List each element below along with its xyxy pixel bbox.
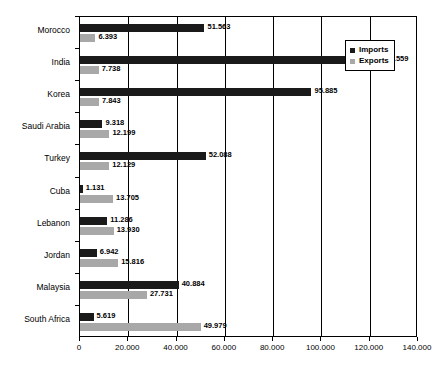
bar-value-label-imports: 9.318 (105, 119, 124, 127)
bar-imports (80, 281, 179, 289)
category-label: Malaysia (36, 282, 70, 292)
category-label: Korea (47, 89, 70, 99)
x-axis-tick (127, 337, 128, 341)
bar-group: 6.94215.816 (80, 242, 416, 274)
bar-value-label-exports: 7.843 (102, 97, 121, 105)
legend-item: Imports (350, 45, 389, 55)
x-axis-tick (320, 337, 321, 341)
bar-group: 40.88427.731 (80, 274, 416, 306)
bar-group: 9.31812.199 (80, 113, 416, 145)
bar-value-label-exports: 49.979 (204, 322, 227, 330)
bar-group: 52.08812.129 (80, 145, 416, 177)
bar-group: 95.8857.843 (80, 81, 416, 113)
value-axis: 020.00040.00060.00080.000100.000120.0001… (79, 337, 417, 359)
bar-exports (80, 195, 113, 203)
x-axis-tick-label: 120.000 (354, 343, 383, 352)
bar-value-label-exports: 12.199 (112, 129, 135, 137)
bar-value-label-imports: 11.286 (110, 216, 133, 224)
x-axis-tick (176, 337, 177, 341)
bar-value-label-imports: 6.942 (100, 248, 119, 256)
bar-group: 11.28613.930 (80, 210, 416, 242)
bar-exports (80, 323, 201, 331)
legend-label: Exports (359, 56, 389, 66)
x-axis-tick (369, 337, 370, 341)
category-axis: MoroccoIndiaKoreaSaudi ArabiaTurkeyCubaL… (0, 16, 75, 337)
x-axis-tick-label: 60.000 (212, 343, 236, 352)
x-axis-tick-label: 0 (77, 343, 81, 352)
bar-exports (80, 130, 109, 138)
bar-exports (80, 66, 99, 74)
bar-exports (80, 162, 109, 170)
x-axis-tick-label: 140.000 (403, 343, 432, 352)
category-label: Morocco (37, 25, 70, 35)
category-label: Saudi Arabia (22, 121, 70, 131)
bar-exports (80, 98, 99, 106)
bar-value-label-exports: 15.816 (121, 258, 144, 266)
x-axis-tick (224, 337, 225, 341)
bar-value-label-imports: 51.563 (207, 23, 230, 31)
bar-value-label-exports: 6.393 (98, 33, 117, 41)
bar-group: 5.61949.979 (80, 306, 416, 338)
x-axis-tick (417, 337, 418, 341)
category-label: Turkey (44, 153, 70, 163)
legend-item: Exports (350, 56, 389, 66)
bar-imports (80, 56, 378, 64)
bar-imports (80, 185, 83, 193)
bar-exports (80, 291, 147, 299)
category-label: Jordan (44, 250, 70, 260)
bar-imports (80, 88, 311, 96)
bar-value-label-imports: 5.619 (97, 312, 116, 320)
bar-value-label-exports: 12.129 (112, 161, 135, 169)
bar-value-label-imports: 52.088 (209, 151, 232, 159)
category-label: Lebanon (37, 218, 70, 228)
x-axis-tick (272, 337, 273, 341)
bar-imports (80, 120, 102, 128)
bar-imports (80, 217, 107, 225)
bar-exports (80, 227, 114, 235)
legend-label: Imports (359, 45, 388, 55)
bar-group: 1.13113.705 (80, 178, 416, 210)
bar-value-label-exports: 7.738 (102, 65, 121, 73)
legend-swatch-icon (350, 59, 355, 64)
bar-chart: MoroccoIndiaKoreaSaudi ArabiaTurkeyCubaL… (0, 0, 443, 372)
category-label: India (52, 57, 70, 67)
x-axis-tick-label: 40.000 (163, 343, 187, 352)
bar-exports (80, 34, 95, 42)
bar-imports (80, 24, 204, 32)
x-axis-tick (79, 337, 80, 341)
bar-exports (80, 259, 118, 267)
bar-value-label-imports: 40.884 (182, 280, 205, 288)
bar-value-label-imports: 1.131 (86, 184, 105, 192)
x-axis-tick-label: 100.000 (306, 343, 335, 352)
bar-imports (80, 313, 94, 321)
bar-value-label-exports: 13.705 (116, 194, 139, 202)
bar-imports (80, 249, 97, 257)
bar-value-label-exports: 27.731 (150, 290, 173, 298)
x-axis-tick-label: 80.000 (260, 343, 284, 352)
category-label: Cuba (50, 186, 70, 196)
bar-imports (80, 152, 206, 160)
bar-value-label-imports: 95.885 (314, 87, 337, 95)
category-label: South Africa (24, 314, 70, 324)
legend-swatch-icon (350, 48, 355, 53)
legend: ImportsExports (345, 40, 395, 71)
x-axis-tick-label: 20.000 (115, 343, 139, 352)
bar-value-label-exports: 13.930 (117, 226, 140, 234)
